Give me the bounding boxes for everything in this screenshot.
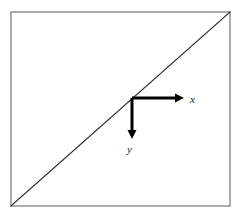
y-axis-label: y — [126, 143, 132, 155]
coordinate-axes-figure: x y — [0, 0, 242, 216]
x-axis-label: x — [189, 93, 195, 105]
figure-container: x y — [0, 0, 242, 216]
